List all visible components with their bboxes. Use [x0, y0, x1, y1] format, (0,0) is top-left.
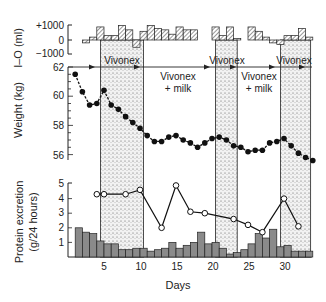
weight-point	[72, 72, 78, 78]
io-bar	[291, 36, 298, 40]
io-bar	[176, 27, 183, 40]
protein-bar	[248, 244, 255, 257]
protein-point	[159, 225, 165, 231]
weight-point	[260, 147, 266, 153]
protein-point	[202, 210, 208, 216]
vivonex-shaded-regions	[100, 40, 310, 257]
protein-point	[123, 191, 129, 197]
io-tick-zero: 0	[58, 35, 64, 46]
io-bar	[118, 26, 125, 41]
protein-bar	[198, 232, 205, 257]
protein-point	[281, 196, 287, 202]
io-bar	[133, 40, 140, 47]
weight-point	[238, 145, 244, 151]
protein-bar	[277, 247, 284, 257]
weight-point	[209, 136, 215, 142]
protein-bar	[111, 244, 118, 257]
io-bar	[97, 27, 104, 40]
protein-tick-5: 5	[58, 178, 64, 189]
protein-bar	[298, 251, 305, 257]
protein-bar	[82, 232, 89, 257]
io-bar	[154, 28, 161, 40]
weight-point	[310, 158, 316, 164]
protein-axis-label-2: (g/24 hours)	[27, 192, 39, 251]
phase-label-4a: Vivonex	[241, 71, 276, 82]
protein-bar	[104, 244, 111, 257]
weight-point	[281, 136, 287, 142]
protein-tick-2: 2	[58, 222, 64, 233]
protein-bar	[190, 242, 197, 257]
protein-bar	[169, 242, 176, 257]
io-bar	[306, 37, 313, 40]
protein-bar	[147, 251, 154, 257]
protein-point	[94, 191, 100, 197]
weight-point	[80, 89, 86, 95]
weight-point	[123, 114, 129, 120]
weight-point	[94, 101, 100, 107]
weight-point	[231, 143, 237, 149]
protein-tick-1: 1	[58, 237, 64, 248]
weight-point	[137, 126, 143, 132]
protein-bar	[126, 250, 133, 257]
vivonex-region	[280, 40, 310, 257]
protein-bar	[97, 241, 104, 257]
protein-bar	[226, 254, 233, 257]
x-tick-25: 25	[243, 261, 255, 272]
weight-point	[288, 143, 294, 149]
protein-point	[137, 187, 143, 193]
x-tick-10: 10	[135, 261, 147, 272]
protein-bar	[205, 244, 212, 257]
io-bar	[90, 37, 97, 40]
io-bar	[183, 30, 190, 40]
protein-bar	[154, 250, 161, 257]
io-bar	[162, 30, 169, 40]
io-bar	[104, 36, 111, 40]
phase-label-2b: + milk	[165, 83, 192, 94]
weight-point	[180, 137, 186, 143]
weight-tick-62: 62	[53, 62, 65, 73]
weight-point	[252, 147, 258, 153]
protein-bar	[291, 251, 298, 257]
protein-point	[188, 209, 194, 215]
protein-bar	[212, 242, 219, 257]
io-bar	[234, 39, 241, 40]
phase-label-3: Vivonex	[209, 55, 244, 66]
weight-point	[224, 137, 230, 143]
io-bar	[270, 40, 277, 43]
weight-point	[296, 150, 302, 156]
weight-point	[173, 133, 179, 139]
weight-point	[87, 102, 93, 108]
weight-point	[108, 102, 114, 108]
protein-point	[296, 224, 302, 230]
phase-label-2a: Vivonex	[160, 71, 195, 82]
io-tick-minus: −1000	[36, 48, 65, 59]
protein-bar	[219, 248, 226, 257]
io-bar	[212, 27, 219, 40]
protein-bar	[241, 250, 248, 257]
protein-bar	[176, 248, 183, 257]
protein-axis-label-1: Protein excretion	[13, 181, 25, 264]
io-bar	[140, 31, 147, 40]
io-bar	[277, 40, 284, 44]
protein-tick-3: 3	[58, 207, 64, 218]
io-bar	[190, 30, 197, 40]
io-bar	[82, 40, 89, 43]
io-bar	[219, 36, 226, 40]
protein-bar	[118, 250, 125, 257]
weight-point	[245, 149, 251, 155]
protein-bar	[284, 245, 291, 257]
weight-point	[195, 145, 201, 151]
x-tick-5: 5	[101, 261, 107, 272]
io-bar	[248, 27, 255, 40]
clinical-chart: I–O (ml) +1000 0 −1000 Weight (kg) 62 60…	[0, 0, 326, 302]
phase-label-1: Vivonex	[104, 55, 139, 66]
weight-point	[274, 139, 280, 145]
protein-tick-4: 4	[58, 193, 64, 204]
io-bar	[126, 30, 133, 40]
io-tick-plus: +1000	[36, 20, 65, 31]
weight-point	[267, 140, 273, 146]
vivonex-region	[100, 40, 143, 257]
protein-bar	[133, 248, 140, 257]
x-axis-label: Days	[165, 279, 191, 291]
weight-point	[166, 134, 172, 140]
